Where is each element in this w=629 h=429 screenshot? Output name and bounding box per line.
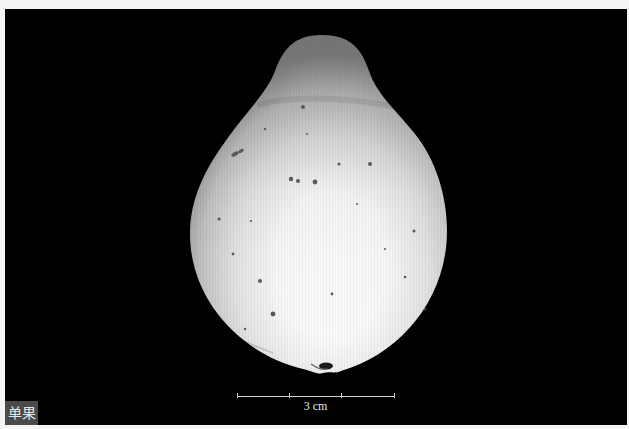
scale-bar — [238, 393, 395, 398]
scale-bar-label: 3 cm — [237, 399, 394, 413]
specimen-label: 单果 — [5, 401, 38, 425]
fruit-photo — [5, 9, 627, 425]
photo-frame: 3 cm 单果 — [5, 9, 627, 425]
fruit — [190, 35, 447, 374]
